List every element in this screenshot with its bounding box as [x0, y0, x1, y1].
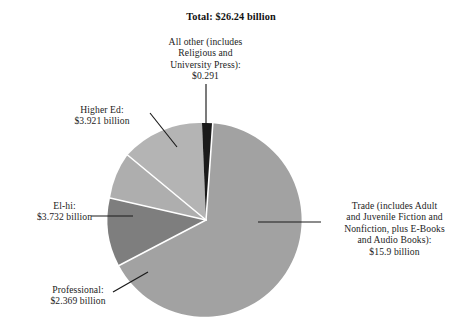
slice-label-professional: Professional: $2.369 billion — [21, 284, 135, 307]
slice-label-all-other: All other (includes Religious and Univer… — [124, 36, 287, 82]
slice-label-elhi: El-hi: $3.732 billion — [6, 200, 123, 223]
slice-label-trade: Trade (includes Adult and Juvenile Ficti… — [329, 200, 460, 257]
pie-chart: Total: $26.24 billion All other (include… — [0, 0, 462, 336]
slice-label-higher-ed: Higher Ed: $3.921 billion — [44, 104, 160, 127]
